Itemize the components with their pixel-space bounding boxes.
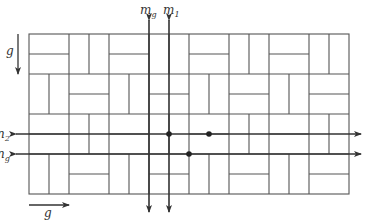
parquet-diagram: mgm1n2nggg	[0, 0, 365, 220]
rotation-point	[166, 131, 172, 137]
tiling-grid	[29, 34, 349, 194]
label-n-2: n2	[0, 127, 10, 143]
label-m-g: mg	[140, 3, 157, 19]
glide-label: g	[44, 206, 52, 220]
labels: mgm1n2nggg	[0, 3, 179, 220]
label-n-g: ng	[0, 147, 10, 163]
label-m-1: m1	[163, 3, 179, 19]
rotation-point	[206, 131, 212, 137]
rotation-point	[186, 151, 192, 157]
glide-arrows	[18, 34, 69, 205]
glide-label: g	[6, 44, 14, 58]
